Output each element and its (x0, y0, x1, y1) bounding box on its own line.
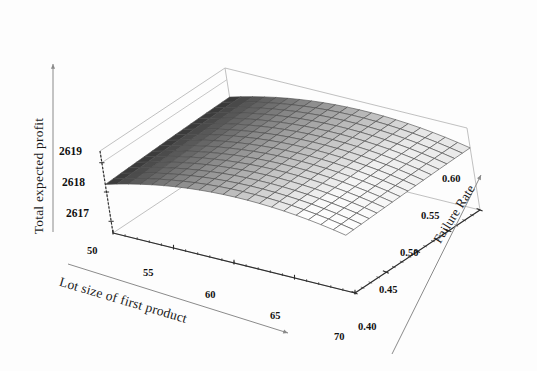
y-tick-label-2619: 2619 (59, 145, 82, 157)
z-tick-label-050: 0.50 (400, 247, 418, 258)
z-tick-label-055: 0.55 (421, 210, 439, 221)
y-tick-label-2618: 2618 (62, 176, 85, 188)
z-tick-label-040: 0.40 (358, 321, 376, 332)
x-tick-label-50: 50 (87, 245, 98, 256)
y-axis-title: Total expected profit (31, 101, 47, 251)
z-tick-label-045: 0.45 (379, 284, 397, 295)
z-tick-label-060: 0.60 (442, 173, 460, 184)
x-tick-label-70: 70 (334, 331, 345, 342)
y-tick-label-2617: 2617 (66, 207, 89, 219)
x-tick-label-60: 60 (205, 289, 216, 300)
x-tick-label-65: 65 (270, 310, 281, 321)
surface-mesh (105, 97, 470, 236)
x-tick-label-55: 55 (143, 267, 154, 278)
surface-plot-figure: Total expected profit Lot size of first … (0, 0, 537, 371)
